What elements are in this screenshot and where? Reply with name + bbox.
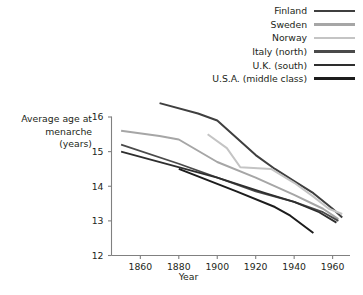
plot-area [0,0,363,295]
data-series-layer [121,103,342,233]
chart-container: Finland Sweden Norway Italy (north) U.K.… [0,0,363,295]
series-line-norway [208,134,343,214]
series-line-finland [160,103,343,217]
series-line-italy-north [121,145,338,221]
